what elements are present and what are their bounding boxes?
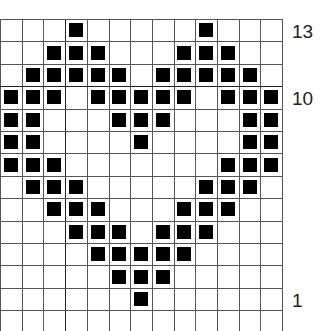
filled-stitch-cell [134,292,148,306]
filled-stitch-cell [112,247,126,261]
grid-line-vertical [282,19,283,331]
filled-stitch-cell [47,90,61,104]
filled-stitch-cell [221,180,235,194]
filled-stitch-cell [91,247,105,261]
filled-stitch-cell [199,180,213,194]
filled-stitch-cell [264,135,278,149]
filled-stitch-cell [177,46,191,60]
filled-stitch-cell [221,158,235,172]
grid-line-horizontal [0,198,282,199]
filled-stitch-cell [26,180,40,194]
grid-line-horizontal [0,176,282,177]
filled-stitch-cell [134,135,148,149]
filled-stitch-cell [47,202,61,216]
filled-stitch-cell [177,247,191,261]
filled-stitch-cell [91,46,105,60]
filled-stitch-cell [264,90,278,104]
knitting-chart-grid [0,19,283,331]
filled-stitch-cell [221,90,235,104]
grid-line-horizontal [0,64,282,65]
filled-stitch-cell [26,113,40,127]
filled-stitch-cell [4,113,18,127]
filled-stitch-cell [47,68,61,82]
grid-line-horizontal [0,221,282,222]
filled-stitch-cell [156,90,170,104]
filled-stitch-cell [243,68,257,82]
filled-stitch-cell [112,90,126,104]
filled-stitch-cell [112,113,126,127]
grid-line-horizontal [0,109,282,110]
filled-stitch-cell [156,247,170,261]
filled-stitch-cell [91,225,105,239]
filled-stitch-cell [69,202,83,216]
filled-stitch-cell [91,90,105,104]
filled-stitch-cell [221,46,235,60]
filled-stitch-cell [91,202,105,216]
filled-stitch-cell [4,135,18,149]
filled-stitch-cell [156,68,170,82]
filled-stitch-cell [91,68,105,82]
filled-stitch-cell [199,225,213,239]
grid-line-horizontal [0,86,282,87]
filled-stitch-cell [199,46,213,60]
grid-line-horizontal [0,243,282,244]
filled-stitch-cell [177,68,191,82]
filled-stitch-cell [221,202,235,216]
filled-stitch-cell [26,158,40,172]
filled-stitch-cell [177,202,191,216]
filled-stitch-cell [134,247,148,261]
filled-stitch-cell [156,113,170,127]
filled-stitch-cell [199,202,213,216]
filled-stitch-cell [112,225,126,239]
filled-stitch-cell [199,68,213,82]
filled-stitch-cell [4,90,18,104]
filled-stitch-cell [243,180,257,194]
grid-line-horizontal [0,19,282,20]
filled-stitch-cell [112,68,126,82]
filled-stitch-cell [26,90,40,104]
grid-line-horizontal [0,288,282,289]
filled-stitch-cell [69,46,83,60]
filled-stitch-cell [221,68,235,82]
filled-stitch-cell [134,90,148,104]
filled-stitch-cell [243,135,257,149]
grid-line-horizontal [0,41,282,42]
row-number-label: 10 [292,89,313,108]
filled-stitch-cell [156,270,170,284]
grid-line-horizontal [0,131,282,132]
filled-stitch-cell [243,158,257,172]
filled-stitch-cell [134,270,148,284]
grid-line-horizontal [0,265,282,266]
filled-stitch-cell [26,135,40,149]
filled-stitch-cell [264,158,278,172]
filled-stitch-cell [47,180,61,194]
filled-stitch-cell [243,113,257,127]
filled-stitch-cell [4,158,18,172]
filled-stitch-cell [47,46,61,60]
filled-stitch-cell [69,23,83,37]
filled-stitch-cell [177,225,191,239]
grid-line-horizontal [0,310,282,311]
filled-stitch-cell [69,225,83,239]
filled-stitch-cell [47,158,61,172]
filled-stitch-cell [69,68,83,82]
filled-stitch-cell [243,90,257,104]
filled-stitch-cell [177,90,191,104]
filled-stitch-cell [156,225,170,239]
filled-stitch-cell [69,180,83,194]
row-number-label: 1 [292,291,303,310]
row-number-label: 13 [292,22,313,41]
filled-stitch-cell [134,113,148,127]
filled-stitch-cell [264,113,278,127]
filled-stitch-cell [26,68,40,82]
filled-stitch-cell [112,270,126,284]
filled-stitch-cell [199,23,213,37]
grid-line-horizontal [0,153,282,154]
